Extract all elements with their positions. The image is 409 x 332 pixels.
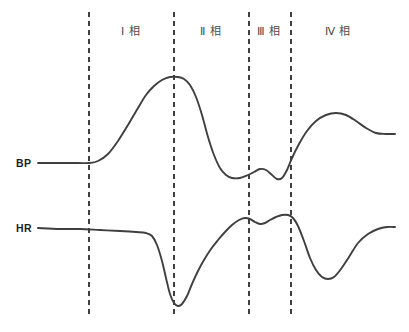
phase-divider-group — [89, 12, 291, 315]
series-label-bp: BP — [16, 157, 31, 169]
series-label-hr: HR — [16, 222, 32, 234]
valsalva-response-chart: Ⅰ 相 Ⅱ 相 Ⅲ 相 Ⅳ 相 BP HR — [0, 0, 409, 332]
curve-bp — [38, 77, 395, 180]
curve-hr — [38, 215, 395, 306]
phase-label-3: Ⅲ 相 — [257, 22, 282, 38]
phase-label-2: Ⅱ 相 — [200, 22, 222, 38]
phase-label-4: Ⅳ 相 — [325, 22, 352, 38]
phase-label-1: Ⅰ 相 — [121, 22, 141, 38]
curve-group — [38, 77, 395, 306]
chart-plot-area — [0, 0, 409, 332]
